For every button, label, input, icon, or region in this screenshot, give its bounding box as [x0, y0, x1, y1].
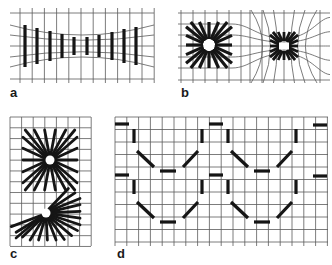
panel-label-d: d	[117, 247, 125, 260]
panel-c-diagram	[10, 117, 91, 246]
panel-a-diagram	[10, 8, 154, 83]
panel-label-a: a	[10, 86, 17, 99]
panel-label-b: b	[181, 86, 189, 99]
panel-b-diagram	[178, 10, 330, 83]
panel-d-diagram	[115, 117, 328, 246]
figure-canvas	[0, 0, 332, 265]
panel-label-c: c	[10, 247, 17, 260]
